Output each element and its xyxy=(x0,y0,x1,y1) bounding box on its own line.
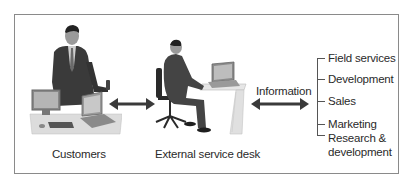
customer-illustration xyxy=(22,22,122,137)
bracket-tick xyxy=(317,101,325,102)
bidirectional-arrow-customer-desk xyxy=(109,97,155,111)
department-marketing: Marketing xyxy=(328,118,377,130)
bracket-tick xyxy=(317,58,325,59)
information-label: Information xyxy=(256,85,311,97)
department-research-line2: development xyxy=(328,146,392,158)
service-desk-illustration xyxy=(150,38,250,138)
department-development: Development xyxy=(328,73,394,85)
service-desk-label: External service desk xyxy=(155,148,260,160)
bracket-tick xyxy=(317,135,325,136)
bidirectional-arrow-information xyxy=(251,97,309,111)
customers-label: Customers xyxy=(52,148,106,160)
department-research: Research & xyxy=(328,132,386,144)
department-sales: Sales xyxy=(328,95,356,107)
bracket-tick xyxy=(317,124,325,125)
department-field-services: Field services xyxy=(328,52,396,64)
bracket-tick xyxy=(317,79,325,80)
